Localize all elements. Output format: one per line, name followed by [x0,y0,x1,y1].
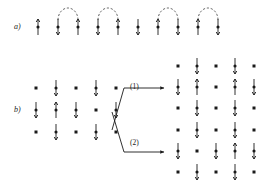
figure-canvas [0,0,258,185]
spin-site [216,19,220,35]
spin-site [116,19,120,35]
spin-site [195,100,199,116]
spin-site [94,80,98,96]
spin-site [233,100,237,116]
lattice-dot [177,65,180,68]
transition-arrow-2 [112,112,164,152]
spin-node [196,25,199,28]
spin-node [195,106,198,109]
lattice-dot [95,109,98,112]
spin-site [54,124,58,140]
spin-site [233,79,237,95]
spin-node [233,85,236,88]
spin-site [195,122,199,138]
spin-site [54,102,58,118]
transition-arrow-1 [112,88,164,130]
spin-site [176,79,180,95]
spin-node [176,149,179,152]
spin-node [116,25,119,28]
spin-node [233,128,236,131]
spin-node [36,25,39,28]
spin-site [94,124,98,140]
spin-site [176,143,180,159]
spin-site [136,19,140,35]
spin-node [176,25,179,28]
lattice-dot [253,171,256,174]
spin-site [252,79,256,95]
spin-node [233,170,236,173]
lattice-dot [215,129,218,132]
spin-node [54,130,57,133]
spin-node [195,64,198,67]
spin-node [214,149,217,152]
spin-site [195,58,199,74]
spin-node [96,25,99,28]
spin-lattice-figure: a) b) (1) (2) [0,0,258,185]
lattice-dot [75,131,78,134]
pair-arc [198,8,218,20]
transition-arrows [112,88,164,152]
lattice-dot [35,87,38,90]
spin-node [94,130,97,133]
spin-site [56,19,60,35]
lattice-dot [253,129,256,132]
spin-node [136,25,139,28]
spin-node [56,25,59,28]
spin-node [233,106,236,109]
spin-node [252,149,255,152]
lattice-dot [215,65,218,68]
spin-site [34,102,38,118]
spin-site [196,19,200,35]
pair-arc [58,8,78,20]
spin-site [176,19,180,35]
spin-site [233,58,237,74]
spin-node [54,108,57,111]
pair-arc [98,8,118,20]
spin-site [96,19,100,35]
spin-site [252,143,256,159]
pair-arc [158,8,178,20]
spin-node [76,25,79,28]
lattice-dot [215,171,218,174]
spin-site [74,102,78,118]
spin-node [233,64,236,67]
spin-node [74,108,77,111]
spin-node [94,86,97,89]
lattice-dot [253,65,256,68]
lattice-dot [177,107,180,110]
lattice-dot [196,150,199,153]
lattice-dot [215,86,218,89]
spin-site [76,19,80,35]
lattice-dot [177,171,180,174]
spin-node [176,85,179,88]
lattice-dot [115,87,118,90]
spin-site [156,19,160,35]
spin-site [233,122,237,138]
spin-node [54,86,57,89]
spin-node [156,25,159,28]
panel-b-graphics [34,58,256,180]
spin-node [216,25,219,28]
spin-node [34,108,37,111]
lattice-dot [115,131,118,134]
spin-node [252,85,255,88]
spin-site [36,19,40,35]
spin-site [214,143,218,159]
lattice-dot [177,129,180,132]
spin-node [195,170,198,173]
spin-node [195,85,198,88]
spin-site [54,80,58,96]
spin-site [195,164,199,180]
spin-node [195,128,198,131]
panel-a-graphics [36,8,220,35]
lattice-dot [75,87,78,90]
spin-site [195,79,199,95]
lattice-dot [253,107,256,110]
lattice-dot [215,107,218,110]
lattice-dot [35,131,38,134]
spin-node [233,149,236,152]
spin-site [233,143,237,159]
spin-site [233,164,237,180]
